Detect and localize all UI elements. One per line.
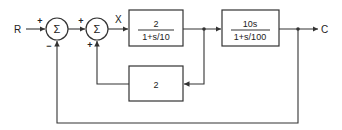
summing-junction-1: Σ + − xyxy=(37,16,68,51)
input-label-r: R xyxy=(14,24,21,35)
block2-denominator: 1+s/100 xyxy=(234,32,266,42)
summing-junction-2: Σ + + xyxy=(78,16,108,50)
inner-feedback-path-in xyxy=(184,29,204,84)
feedback-block: 2 xyxy=(129,66,183,101)
plus-sign: + xyxy=(37,16,42,26)
sigma-icon: Σ xyxy=(54,23,61,35)
plus-sign: + xyxy=(78,16,83,26)
block1-numerator: 2 xyxy=(153,19,158,29)
forward-block-2: 10s 1+s/100 xyxy=(222,10,279,46)
minus-sign: − xyxy=(46,41,51,51)
inner-feedback-path-out xyxy=(97,41,129,84)
block2-numerator: 10s xyxy=(243,19,258,29)
block1-denominator: 1+s/10 xyxy=(142,32,169,42)
forward-block-1: 2 1+s/10 xyxy=(129,10,183,46)
sigma-icon: Σ xyxy=(94,23,101,35)
block-diagram: R Σ + − Σ + + X 2 1+s/10 10s 1+s/100 C xyxy=(0,0,342,130)
plus-sign-feedback: + xyxy=(87,40,92,50)
signal-label-x: X xyxy=(115,14,122,25)
feedback-gain: 2 xyxy=(153,80,158,90)
output-label-c: C xyxy=(321,24,328,35)
